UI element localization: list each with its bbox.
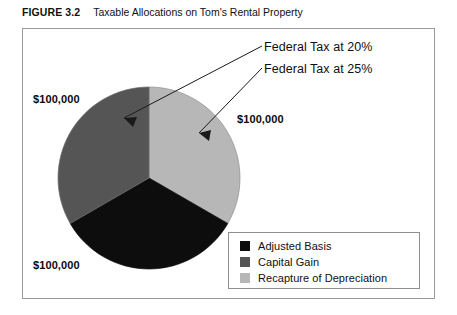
figure-number: FIGURE 3.2	[22, 6, 80, 18]
legend-label-capital-gain: Capital Gain	[258, 256, 319, 268]
value-label-recapture: $100,000	[237, 113, 284, 125]
annotation-federal-tax-25: Federal Tax at 25%	[264, 62, 372, 76]
legend-item-capital-gain: Capital Gain	[240, 254, 419, 269]
value-label-capital-gain: $100,000	[33, 93, 80, 105]
legend-item-adjusted-basis: Adjusted Basis	[240, 238, 419, 253]
legend-label-adjusted-basis: Adjusted Basis	[258, 240, 331, 252]
figure-caption: FIGURE 3.2 Taxable Allocations on Tom's …	[22, 6, 437, 22]
legend-swatch-capital-gain	[240, 257, 250, 267]
legend-swatch-recapture-of-depreciation	[240, 273, 250, 283]
annotation-federal-tax-20: Federal Tax at 20%	[264, 40, 372, 54]
chart-legend: Adjusted Basis Capital Gain Recapture of…	[228, 232, 420, 289]
legend-swatch-adjusted-basis	[240, 241, 250, 251]
figure-title: Taxable Allocations on Tom's Rental Prop…	[93, 6, 303, 18]
legend-label-recapture-of-depreciation: Recapture of Depreciation	[258, 272, 387, 284]
value-label-adjusted-basis: $100,000	[33, 259, 80, 271]
legend-item-recapture-of-depreciation: Recapture of Depreciation	[240, 270, 419, 285]
